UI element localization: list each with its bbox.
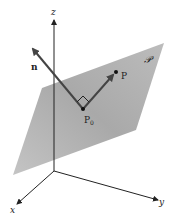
normal-label: n [31, 62, 38, 72]
y-axis-label: y [158, 197, 165, 207]
point-p-label: P [121, 71, 127, 81]
x-axis [17, 171, 54, 204]
point-p [114, 70, 118, 74]
point-p0 [81, 107, 85, 111]
z-axis-label: z [50, 7, 56, 17]
x-axis-label: x [10, 205, 15, 215]
y-axis [54, 171, 158, 200]
plane-normal-diagram: z x y n P P0 𝒫 [0, 0, 177, 222]
